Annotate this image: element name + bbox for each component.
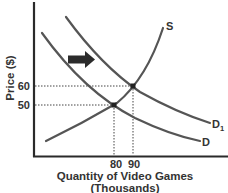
demand-curve-d1 — [66, 17, 210, 123]
demand-curve-d — [42, 33, 200, 141]
supply-demand-chart: Price ($) 60 50 S D D1 80 90 Quantity of… — [0, 0, 228, 193]
equilibrium-point-90-60 — [131, 84, 136, 89]
x-axis-title: Quantity of Video Games — [57, 170, 194, 182]
y-axis-title: Price ($) — [4, 55, 16, 101]
x-tick-80: 80 — [110, 158, 122, 170]
equilibrium-point-80-50 — [112, 103, 117, 108]
y-tick-50: 50 — [18, 99, 30, 111]
supply-label: S — [166, 20, 173, 32]
x-axis-title-units: (Thousands) — [91, 182, 160, 193]
x-tick-90: 90 — [128, 158, 140, 170]
demand-label: D — [202, 136, 210, 148]
supply-curve-s — [46, 28, 163, 141]
demand-shifted-label: D1 — [212, 118, 224, 133]
shift-right-arrow-icon — [68, 51, 95, 68]
y-tick-60: 60 — [18, 80, 30, 92]
